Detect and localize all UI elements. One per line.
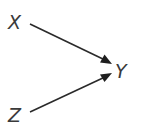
node-y-label: Y <box>115 60 128 82</box>
edge-z-to-y <box>30 73 112 112</box>
edge-z-to-y-line <box>30 77 105 112</box>
arrowhead-icon <box>100 73 112 82</box>
node-y: Y <box>115 60 128 82</box>
node-z: Z <box>7 104 22 124</box>
edge-x-to-y <box>30 24 112 64</box>
causal-diagram: X Y Z <box>0 0 145 124</box>
edge-x-to-y-line <box>30 24 105 60</box>
node-x: X <box>7 11 22 33</box>
node-z-label: Z <box>7 104 22 124</box>
node-x-label: X <box>7 11 22 33</box>
